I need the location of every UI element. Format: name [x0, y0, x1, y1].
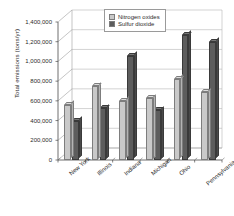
- legend-item[interactable]: Sulfur dioxide: [109, 21, 160, 27]
- y-axis-tick-label: 1,200,000: [8, 39, 52, 45]
- bars-layer: [54, 8, 226, 170]
- bar-side-face: [208, 88, 211, 159]
- bar-illinois-nitrogen-oxides: [92, 86, 99, 160]
- y-axis-tick-label: 800,000: [8, 78, 52, 84]
- plot-area: [54, 8, 226, 170]
- y-axis-tick-labels: 1,400,0001,200,0001,000,000800,000600,00…: [8, 0, 52, 216]
- y-axis-tick-label: 0: [8, 157, 52, 163]
- y-axis-tick-label: 600,000: [8, 98, 52, 104]
- bar-side-face: [216, 38, 219, 159]
- bar-front-face: [201, 92, 208, 160]
- bar-ohio-nitrogen-oxides: [174, 79, 181, 160]
- legend-label: Nitrogen oxides: [118, 14, 160, 20]
- x-axis-tick-labels: New YorkIllinoisIndianaMichiganOhioPenns…: [54, 170, 234, 216]
- bar-pennsylvania-nitrogen-oxides: [201, 92, 208, 160]
- y-axis-tick-label: 1,000,000: [8, 58, 52, 64]
- bar-michigan-nitrogen-oxides: [146, 98, 153, 160]
- legend-swatch-icon: [109, 21, 115, 27]
- bar-side-face: [134, 51, 137, 158]
- legend-label: Sulfur dioxide: [118, 21, 154, 27]
- bar-new-york-nitrogen-oxides: [64, 105, 71, 160]
- y-axis-tick-label: 200,000: [8, 137, 52, 143]
- y-axis-tick-label: 400,000: [8, 118, 52, 124]
- bar-chart: Total emissions (tons/yr) 1,400,0001,200…: [0, 0, 234, 216]
- bar-side-face: [188, 31, 191, 159]
- bar-front-face: [92, 86, 99, 160]
- legend-swatch-icon: [109, 14, 115, 20]
- bar-side-face: [161, 106, 164, 158]
- bar-side-face: [79, 116, 82, 158]
- bar-side-face: [106, 104, 109, 158]
- bar-front-face: [64, 105, 71, 160]
- bar-front-face: [174, 79, 181, 160]
- bar-side-face: [126, 97, 129, 159]
- bar-front-face: [119, 101, 126, 160]
- bar-side-face: [153, 94, 156, 158]
- bar-front-face: [146, 98, 153, 160]
- bar-indiana-nitrogen-oxides: [119, 101, 126, 160]
- bar-side-face: [180, 74, 183, 158]
- chart-legend: Nitrogen oxidesSulfur dioxide: [104, 9, 166, 32]
- legend-item[interactable]: Nitrogen oxides: [109, 14, 160, 20]
- bar-side-face: [98, 82, 101, 159]
- bar-side-face: [71, 101, 74, 159]
- y-axis-tick-label: 1,400,000: [8, 19, 52, 25]
